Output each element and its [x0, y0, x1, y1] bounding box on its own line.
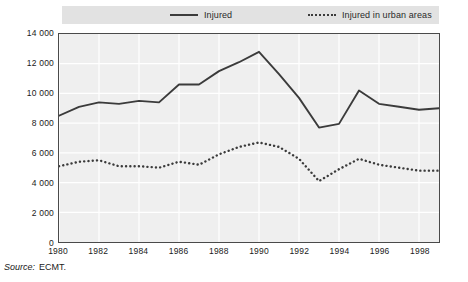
y-tick-label: 8 000 [2, 118, 54, 128]
y-tick-label: 14 000 [2, 28, 54, 38]
source-note: Source:ECMT. [4, 262, 66, 272]
x-tick-label: 1988 [209, 246, 229, 256]
chart-legend: Injured Injured in urban areas [62, 6, 439, 24]
x-tick-label: 1998 [410, 246, 430, 256]
x-tick-label: 1982 [88, 246, 108, 256]
y-tick-label: 6 000 [2, 148, 54, 158]
legend-item-injured-urban: Injured in urban areas [308, 10, 432, 20]
y-tick-label: 10 000 [2, 88, 54, 98]
source-label: Source: [4, 262, 35, 272]
x-tick-label: 1984 [129, 246, 149, 256]
legend-label-injured: Injured [204, 10, 232, 20]
line-chart: 14 00012 00010 0008 0006 0004 0002 0000 … [0, 26, 468, 256]
data-series [59, 34, 439, 242]
x-tick-label: 1994 [330, 246, 350, 256]
legend-dotted-line-icon [308, 14, 336, 16]
legend-label-injured-urban: Injured in urban areas [342, 10, 432, 20]
x-tick-label: 1996 [370, 246, 390, 256]
x-tick-label: 1990 [249, 246, 269, 256]
y-tick-label: 4 000 [2, 178, 54, 188]
legend-solid-line-icon [170, 14, 198, 16]
y-tick-label: 2 000 [2, 208, 54, 218]
y-tick-label: 12 000 [2, 58, 54, 68]
series-line-injured [59, 52, 439, 128]
plot-area [58, 33, 440, 243]
source-value: ECMT. [39, 262, 66, 272]
y-axis: 14 00012 00010 0008 0006 0004 0002 0000 [0, 33, 54, 243]
x-tick-label: 1992 [289, 246, 309, 256]
x-tick-label: 1980 [48, 246, 68, 256]
series-line-injured-in-urban-areas [59, 142, 439, 181]
x-axis: 1980198219841986198819901992199419961998 [0, 246, 468, 260]
legend-item-injured: Injured [170, 10, 232, 20]
x-tick-label: 1986 [169, 246, 189, 256]
